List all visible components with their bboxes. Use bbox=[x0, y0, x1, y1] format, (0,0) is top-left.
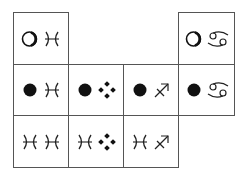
pisces-glyph bbox=[20, 132, 40, 152]
pisces-glyph bbox=[42, 80, 62, 100]
hollow-circle-icon bbox=[20, 29, 40, 49]
pisces-glyph bbox=[130, 132, 150, 152]
grid-cell-r0-c3 bbox=[178, 12, 235, 65]
grid-cell-r1-c2 bbox=[123, 64, 179, 116]
pisces-icon bbox=[20, 132, 40, 152]
sagittarius-icon bbox=[152, 132, 172, 152]
pisces-icon bbox=[42, 80, 62, 100]
filled-circle-icon bbox=[20, 80, 40, 100]
cancer-icon bbox=[206, 29, 230, 49]
grid-cell-r1-c1 bbox=[68, 64, 124, 116]
pisces-glyph bbox=[42, 29, 62, 49]
filled-circle-glyph bbox=[184, 80, 204, 100]
grid-cell-r1-c0 bbox=[13, 64, 69, 116]
hollow-circle-icon bbox=[184, 29, 204, 49]
hollow-circle-glyph bbox=[20, 29, 40, 49]
pisces-icon bbox=[75, 132, 95, 152]
pisces-icon bbox=[130, 132, 150, 152]
grid-cell-r0-c0 bbox=[13, 12, 69, 65]
filled-circle-glyph bbox=[20, 80, 40, 100]
filled-circle-icon bbox=[130, 80, 150, 100]
filled-circle-glyph bbox=[130, 80, 150, 100]
four-dot-diamond-glyph bbox=[97, 80, 117, 100]
grid-cell-r2-c1 bbox=[68, 115, 124, 168]
grid-cell-r1-c3 bbox=[178, 64, 235, 116]
filled-circle-icon bbox=[75, 80, 95, 100]
four-dot-diamond-icon bbox=[97, 132, 117, 152]
sagittarius-glyph bbox=[152, 80, 172, 100]
sagittarius-glyph bbox=[152, 132, 172, 152]
grid-cell-r2-c0 bbox=[13, 115, 69, 168]
grid-cell-r2-c2 bbox=[123, 115, 179, 168]
pisces-icon bbox=[42, 29, 62, 49]
filled-circle-glyph bbox=[75, 80, 95, 100]
four-dot-diamond-glyph bbox=[97, 132, 117, 152]
pisces-glyph bbox=[75, 132, 95, 152]
filled-circle-icon bbox=[184, 80, 204, 100]
pisces-icon bbox=[42, 132, 62, 152]
pisces-glyph bbox=[42, 132, 62, 152]
cancer-glyph bbox=[206, 29, 230, 49]
cancer-glyph bbox=[206, 80, 230, 100]
four-dot-diamond-icon bbox=[97, 80, 117, 100]
cancer-icon bbox=[206, 80, 230, 100]
hollow-circle-glyph bbox=[184, 29, 204, 49]
sagittarius-icon bbox=[152, 80, 172, 100]
